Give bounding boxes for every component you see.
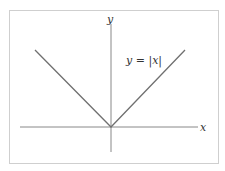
absolute-value-plot: x y y = |x|	[0, 0, 225, 171]
plot-frame	[10, 11, 219, 164]
y-axis-label: y	[106, 13, 114, 26]
equation-label: y = |x|	[125, 54, 162, 68]
x-axis-label: x	[200, 121, 207, 134]
